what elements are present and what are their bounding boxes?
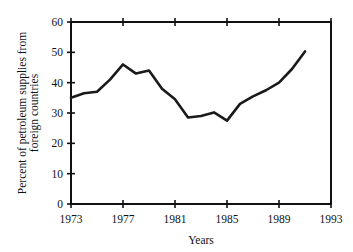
y-tick-label: 20 — [52, 137, 64, 149]
x-tick-label: 1985 — [216, 213, 239, 225]
y-tick-label: 10 — [52, 168, 64, 180]
y-tick-label: 0 — [57, 198, 63, 210]
series-path — [71, 51, 305, 120]
y-tick-label: 50 — [52, 46, 64, 58]
y-axis-tick-labels: 0102030405060 — [52, 16, 64, 210]
x-axis-title-label: Years — [188, 234, 214, 246]
chart-container: 0102030405060 197319771981198519891993 P… — [0, 0, 353, 252]
chart-tick-marks — [67, 18, 331, 208]
y-tick-label: 60 — [52, 16, 64, 28]
x-tick-label: 1977 — [112, 213, 135, 225]
y-axis-title-line2: foreign countries — [28, 73, 41, 152]
chart-axes — [71, 22, 331, 204]
y-tick-label: 30 — [52, 107, 64, 119]
y-tick-label: 40 — [52, 77, 64, 89]
data-series-line — [71, 51, 305, 120]
x-axis-tick-labels: 197319771981198519891993 — [60, 213, 343, 225]
y-axis-title: Percent of petroleum supplies fromforeig… — [16, 32, 41, 194]
line-chart: 0102030405060 197319771981198519891993 P… — [0, 0, 353, 252]
x-tick-label: 1989 — [268, 213, 291, 225]
x-axis-title: Years — [188, 234, 214, 246]
x-tick-label: 1993 — [320, 213, 343, 225]
x-tick-label: 1973 — [60, 213, 83, 225]
x-tick-label: 1981 — [164, 213, 187, 225]
